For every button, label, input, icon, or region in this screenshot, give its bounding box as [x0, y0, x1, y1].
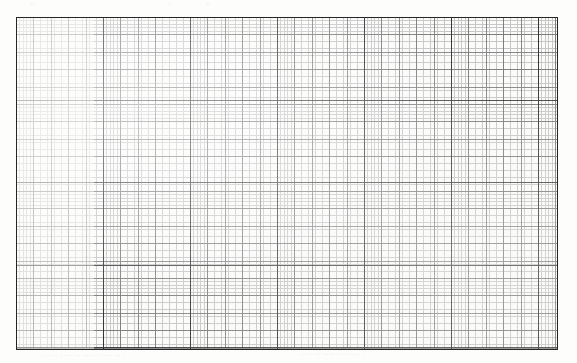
graph-paper-grid	[16, 17, 558, 350]
bleed-through-mark-top-b: -	[168, 0, 170, 6]
bleed-through-mark-bottom-b: ··· · ·· ···· · ··· ··· ·	[300, 351, 366, 358]
bleed-through-mark-bottom-a: · · ·· · ··· ·· ···· · ···· ·· ·	[42, 352, 126, 359]
page-canvas: ·· - ~ · · ·· · ··· ·· ···· · ···· ·· · …	[0, 0, 577, 363]
bleed-through-mark-top-c: ~	[206, 1, 210, 7]
major-grid-layer	[16, 17, 558, 350]
faded-left-block	[16, 17, 94, 350]
bleed-through-mark-top-a: ··	[30, 1, 35, 8]
paper-tint-overlay	[16, 17, 558, 350]
medium-grid-layer	[16, 17, 558, 350]
fine-grid-layer	[16, 17, 558, 350]
grid-outer-border	[16, 17, 558, 350]
